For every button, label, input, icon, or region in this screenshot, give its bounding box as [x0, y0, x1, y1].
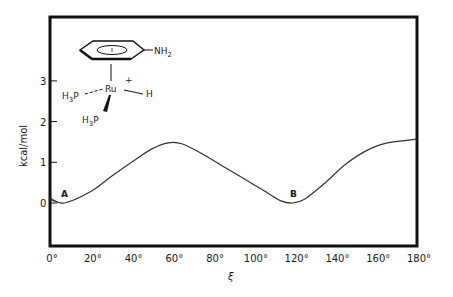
x-tick-label: 180°: [407, 253, 431, 264]
x-tick-label: 160°: [366, 253, 390, 264]
point-b-label: B: [290, 189, 297, 199]
hydride-label: H: [146, 89, 153, 99]
molecule-structure: NH2 Ru + H H3P H3P: [62, 41, 172, 128]
x-tick-label: 20°: [84, 253, 102, 264]
y-tick-label: 2: [40, 117, 46, 128]
energy-curve: [50, 139, 417, 203]
y-tick-label: 3: [40, 76, 46, 87]
phosphine-1-label: H3P: [62, 91, 79, 104]
x-tick-label: 100°: [244, 253, 268, 264]
y-tick-label: 0: [40, 198, 46, 209]
x-tick-label: 40°: [125, 253, 143, 264]
x-tick-label: 140°: [325, 253, 349, 264]
x-tick-label: 80°: [206, 253, 224, 264]
nh2-label: NH2: [154, 46, 172, 59]
plot-frame: [50, 17, 417, 246]
x-tick-label: 0°: [46, 253, 57, 264]
ru-label: Ru: [105, 84, 117, 94]
point-a-label: A: [61, 189, 68, 199]
wedge-bond-icon: [103, 95, 111, 112]
y-tick-label: 1: [40, 157, 46, 168]
charge-label: +: [125, 75, 133, 85]
x-axis-ticks: 0°20°40°60°80°100°120°140°160°180°: [46, 253, 431, 264]
x-axis-label: ξ: [227, 271, 234, 282]
phosphine-2-label: H3P: [82, 115, 99, 128]
energy-profile-chart: 0123 0°20°40°60°80°100°120°140°160°180° …: [0, 0, 453, 297]
x-tick-label: 60°: [165, 253, 183, 264]
y-axis-label: kcal/mol: [18, 125, 29, 167]
x-tick-label: 120°: [285, 253, 309, 264]
